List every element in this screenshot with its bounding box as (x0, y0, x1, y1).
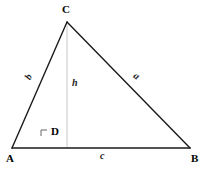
right-angle-marker-icon (41, 130, 47, 136)
vertex-label-b: B (191, 153, 198, 164)
vertex-label-c: C (62, 4, 70, 15)
side-line-a (67, 22, 190, 148)
side-label-h: h (72, 78, 78, 88)
triangle-diagram: C A B D b a h c (0, 0, 204, 169)
triangle-svg (0, 0, 204, 169)
vertex-label-a: A (6, 153, 14, 164)
vertex-label-d: D (51, 126, 59, 137)
side-label-c: c (100, 151, 104, 161)
